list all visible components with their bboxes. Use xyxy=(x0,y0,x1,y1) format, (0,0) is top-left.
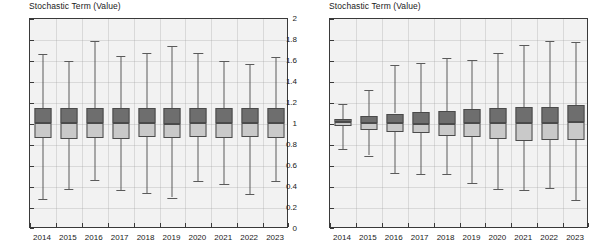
y-axis-tick-label: 0 xyxy=(293,224,297,233)
boxplot-2020 xyxy=(185,19,211,227)
x-axis-tick-label-2014: 2014 xyxy=(33,233,51,242)
whisker-lower xyxy=(42,138,43,199)
whisker-upper xyxy=(250,64,251,108)
whisker-cap-lower xyxy=(571,200,580,201)
x-axis-tick-label-2018: 2018 xyxy=(437,233,455,242)
whisker-cap-upper xyxy=(64,61,73,62)
whisker-lower xyxy=(446,136,447,175)
whisker-lower xyxy=(224,138,225,184)
boxplot-2023 xyxy=(263,19,289,227)
box-upper-quartile xyxy=(242,108,259,123)
whisker-cap-upper xyxy=(416,63,425,64)
y-axis-tick-label: 1.2 xyxy=(286,98,297,107)
boxplot-2014 xyxy=(30,19,56,227)
whisker-cap-upper xyxy=(142,53,151,54)
whisker-upper xyxy=(472,60,473,109)
whisker-cap-upper xyxy=(520,45,529,46)
boxplot-2021 xyxy=(211,19,237,227)
whisker-cap-lower xyxy=(468,183,477,184)
whisker-upper xyxy=(368,90,369,115)
x-tick-mark xyxy=(185,223,186,227)
y-axis-tick-label: 1.6 xyxy=(286,56,297,65)
boxplot-2022 xyxy=(537,19,563,227)
whisker-cap-upper xyxy=(468,60,477,61)
whisker-cap-upper xyxy=(494,53,503,54)
box-upper-quartile xyxy=(190,108,207,123)
box-lower-quartile xyxy=(516,123,533,141)
boxplot-2015 xyxy=(56,19,82,227)
box-upper-quartile xyxy=(490,108,507,123)
x-tick-mark xyxy=(237,223,238,227)
x-axis-tick-label-2021: 2021 xyxy=(514,233,532,242)
whisker-lower xyxy=(472,137,473,183)
boxplot-2019 xyxy=(460,19,486,227)
whisker-cap-lower xyxy=(416,174,425,175)
x-axis-tick-label-2017: 2017 xyxy=(111,233,129,242)
whisker-lower xyxy=(550,140,551,188)
whisker-cap-lower xyxy=(390,173,399,174)
whisker-cap-lower xyxy=(142,193,151,194)
box-lower-quartile xyxy=(164,124,181,138)
whisker-lower xyxy=(394,132,395,173)
x-axis-tick-label-2017: 2017 xyxy=(411,233,429,242)
whisker-upper xyxy=(394,65,395,113)
box-lower-quartile xyxy=(190,123,207,137)
boxplot-2017 xyxy=(408,19,434,227)
x-axis-tick-label-2022: 2022 xyxy=(240,233,258,242)
whisker-lower xyxy=(524,141,525,190)
x-tick-mark xyxy=(330,223,331,227)
box-lower-quartile xyxy=(360,123,377,130)
whisker-upper xyxy=(446,58,447,112)
box-lower-quartile xyxy=(412,124,429,133)
boxplot-2021 xyxy=(511,19,537,227)
whisker-cap-upper xyxy=(545,41,554,42)
x-tick-mark xyxy=(211,223,212,227)
whisker-upper xyxy=(498,53,499,109)
whisker-lower xyxy=(368,130,369,155)
x-axis-tick-label-2021: 2021 xyxy=(214,233,232,242)
box-lower-quartile xyxy=(568,122,585,140)
x-axis-tick-label-2023: 2023 xyxy=(566,233,584,242)
x-tick-mark xyxy=(160,223,161,227)
box-lower-quartile xyxy=(242,123,259,137)
boxplot-2018 xyxy=(134,19,160,227)
whisker-upper xyxy=(420,63,421,112)
whisker-lower xyxy=(172,138,173,198)
box-upper-quartile xyxy=(464,109,481,123)
box-upper-quartile xyxy=(216,108,233,123)
boxplot-2016 xyxy=(82,19,108,227)
x-tick-mark xyxy=(511,223,512,227)
boxplot-figure: Stochastic Term (Value) 00.20.40.60.811.… xyxy=(0,0,600,249)
y-axis-tick-label: 2 xyxy=(293,14,297,23)
whisker-cap-upper xyxy=(571,42,580,43)
boxplot-2016 xyxy=(382,19,408,227)
x-axis-tick-label-2020: 2020 xyxy=(488,233,506,242)
box-upper-quartile xyxy=(360,116,377,123)
boxplot-2020 xyxy=(485,19,511,227)
box-lower-quartile xyxy=(334,122,351,126)
whisker-cap-lower xyxy=(364,156,373,157)
whisker-cap-upper xyxy=(364,90,373,91)
whisker-cap-upper xyxy=(168,46,177,47)
whisker-cap-lower xyxy=(271,181,280,182)
whisker-lower xyxy=(146,137,147,194)
box-upper-quartile xyxy=(438,111,455,124)
whisker-lower xyxy=(498,139,499,189)
whisker-lower xyxy=(342,126,343,149)
x-tick-mark xyxy=(460,223,461,227)
whisker-upper xyxy=(198,53,199,109)
x-axis-tick-label-2015: 2015 xyxy=(359,233,377,242)
boxplot-2023 xyxy=(563,19,589,227)
whisker-cap-upper xyxy=(116,56,125,57)
box-upper-quartile xyxy=(516,107,533,123)
y-axis-tick-label: 0.8 xyxy=(286,140,297,149)
box-lower-quartile xyxy=(386,123,403,132)
box-lower-quartile xyxy=(34,123,51,138)
whisker-cap-lower xyxy=(442,174,451,175)
whisker-upper xyxy=(68,61,69,108)
box-lower-quartile xyxy=(138,123,155,137)
whisker-upper xyxy=(172,46,173,108)
whisker-cap-lower xyxy=(194,181,203,182)
box-upper-quartile xyxy=(164,108,181,124)
box-upper-quartile xyxy=(138,108,155,123)
